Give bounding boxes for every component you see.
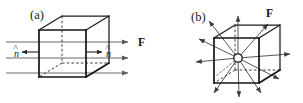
panel-a-force-label: F: [138, 36, 145, 48]
figure-container: (a) F ^ n ^ n: [0, 0, 303, 103]
panel-b-force-label: F: [266, 7, 273, 19]
point-source-marker: [234, 54, 242, 62]
normal-right-label: n: [106, 48, 111, 59]
panel-b-label: (b): [191, 10, 206, 24]
cube-force-diagram: (a) F ^ n ^ n: [0, 0, 303, 103]
normal-left-label: n: [14, 48, 19, 59]
panel-a-label: (a): [30, 8, 44, 22]
